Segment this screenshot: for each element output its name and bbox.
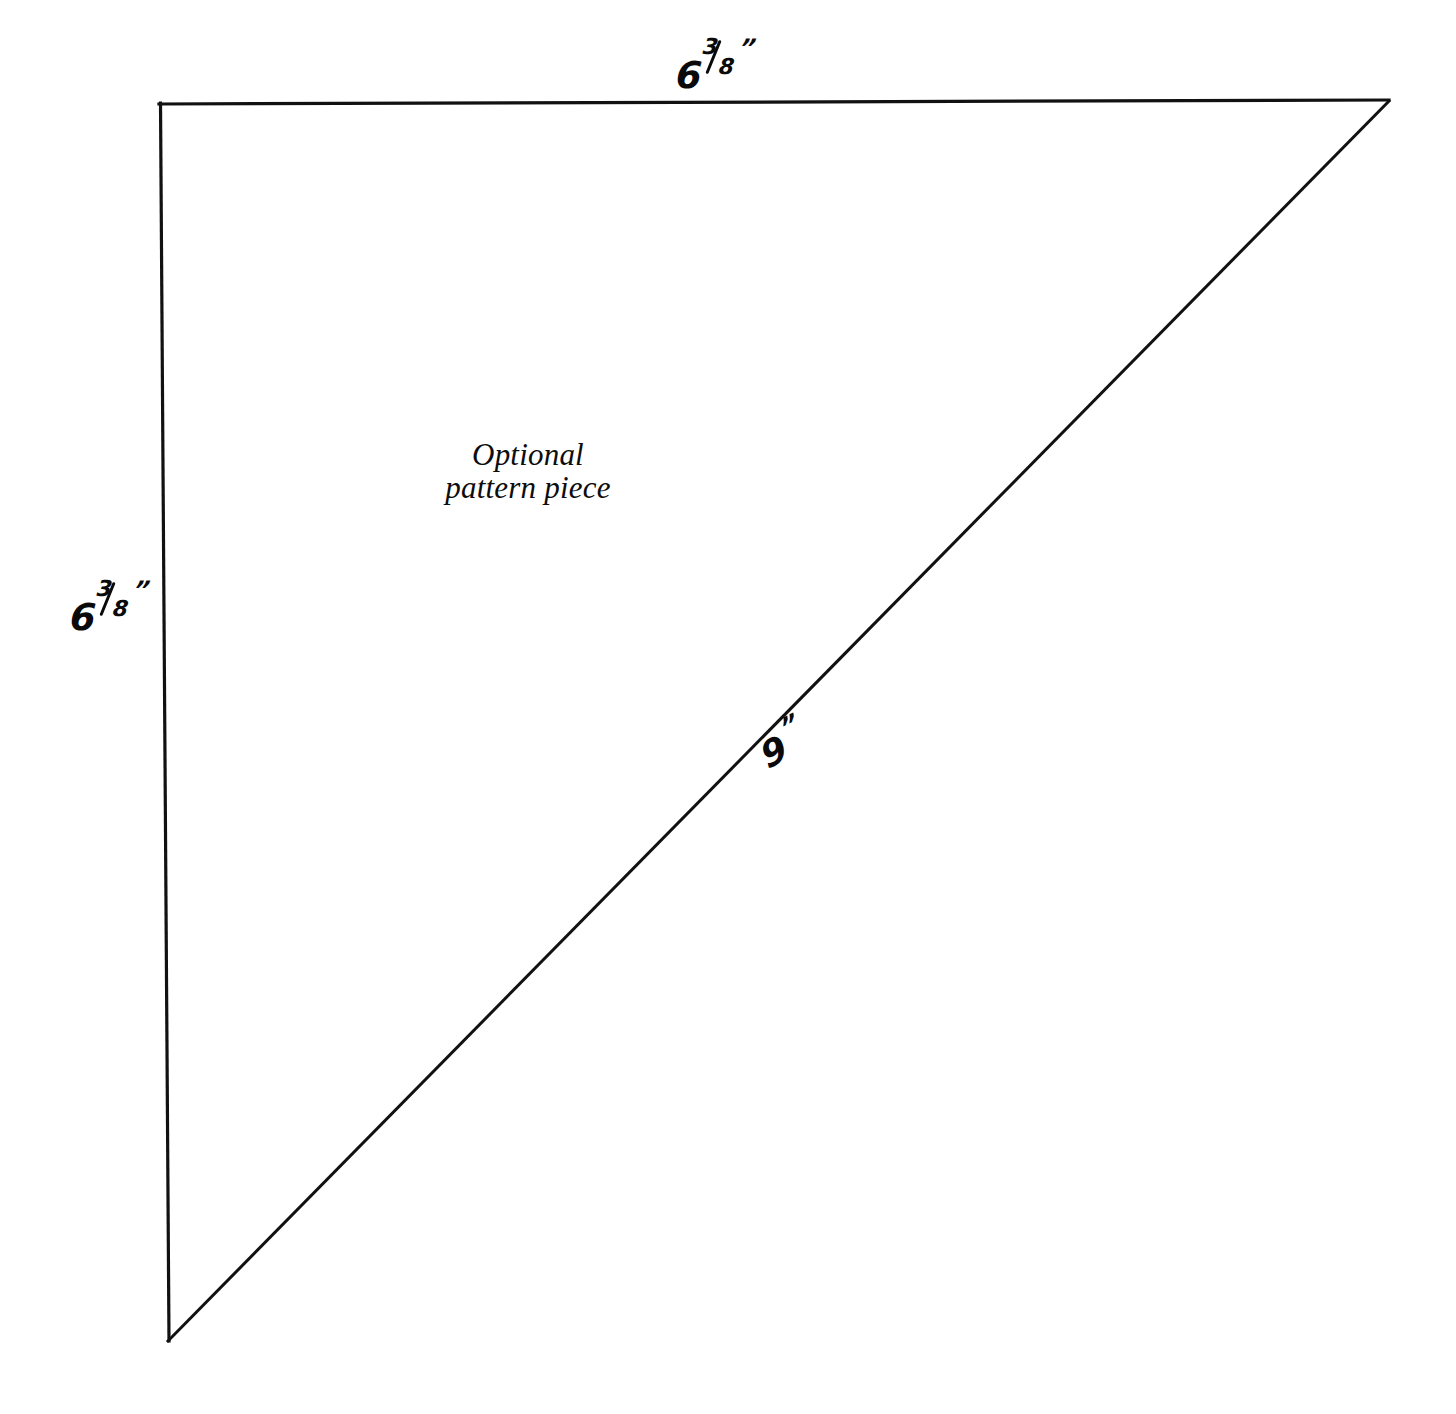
- left-dimension-unit: ”: [132, 578, 151, 602]
- triangle-diagram: [0, 0, 1456, 1414]
- left-dimension-fraction: 38: [97, 592, 131, 630]
- top-dimension-whole: 6: [675, 57, 703, 94]
- left-edge-dimension-label: 638”: [70, 592, 148, 636]
- top-edge-line: [159, 100, 1389, 104]
- hypotenuse-line: [168, 101, 1389, 1341]
- top-edge-dimension-label: 638”: [676, 50, 754, 94]
- pattern-diagram-page: Optional pattern piece 638” 638” 9”: [0, 0, 1456, 1414]
- caption-line-2: pattern piece: [368, 471, 688, 504]
- caption-line-1: Optional: [368, 438, 688, 471]
- top-dimension-unit: ”: [738, 36, 757, 60]
- left-dimension-denominator: 8: [112, 598, 130, 620]
- left-edge-line: [161, 103, 170, 1341]
- top-dimension-fraction: 38: [703, 50, 737, 88]
- top-dimension-denominator: 8: [718, 56, 736, 78]
- left-dimension-whole: 6: [69, 599, 97, 636]
- pattern-piece-caption: Optional pattern piece: [368, 438, 688, 505]
